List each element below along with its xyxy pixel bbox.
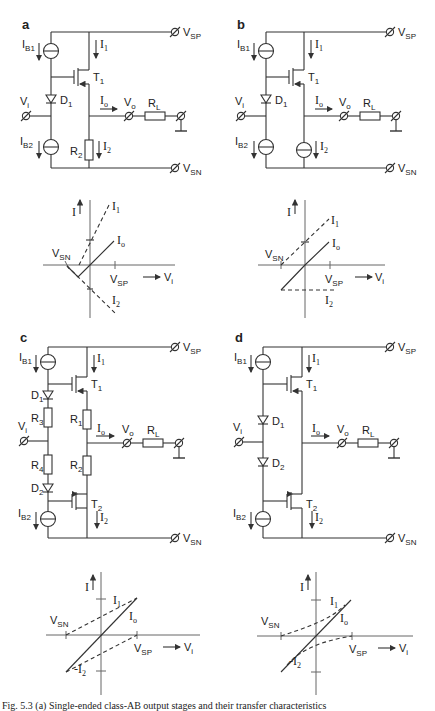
i1-label: I1 xyxy=(100,37,108,53)
i2-label: I2 xyxy=(112,293,120,309)
io-label: Io xyxy=(100,93,108,109)
vsn-terminal xyxy=(385,533,395,543)
ib1-label: IB1 xyxy=(237,38,250,53)
ib2-label: IB2 xyxy=(20,135,33,150)
vsn-label: VSN xyxy=(183,532,202,547)
resistor-r2 xyxy=(83,456,91,475)
ib2-label: IB2 xyxy=(233,507,246,522)
rl-label: RL xyxy=(148,97,161,112)
vo-label: Vo xyxy=(122,423,134,438)
vsn-label: VSN xyxy=(50,614,69,629)
vi-label: Vi xyxy=(18,420,27,435)
vi-label: Vi xyxy=(235,95,244,110)
vsp-terminal xyxy=(170,27,180,37)
vsp-label: VSP xyxy=(398,341,416,356)
panel-d-plot: I I1 Io -I2 VSN VSP Vi xyxy=(257,572,413,695)
vsn-terminal xyxy=(170,163,180,173)
vsp-label: VSP xyxy=(183,341,201,356)
vsn-label: VSN xyxy=(398,162,417,177)
y-axis-label: I xyxy=(85,580,89,594)
vsn-terminal xyxy=(385,163,395,173)
io-label: Io xyxy=(117,233,125,249)
i2-label: I2 xyxy=(315,510,323,526)
current-source-ib2 xyxy=(256,512,271,527)
resistor-rl xyxy=(145,112,165,120)
x-axis-label: Vi xyxy=(164,271,173,286)
panel-a-label: a xyxy=(22,17,30,32)
vsn-label: VSN xyxy=(261,615,280,630)
curve-i1 xyxy=(79,203,110,265)
i2-label: -I2 xyxy=(74,662,86,678)
vi-terminal xyxy=(234,437,244,447)
i2-label: I2 xyxy=(320,139,328,155)
x-axis-label: Vi xyxy=(375,271,384,286)
i2-label: I2 xyxy=(103,139,111,155)
vo-label: Vo xyxy=(337,423,349,438)
current-source-ib1 xyxy=(256,355,271,370)
vsn-label: VSN xyxy=(183,162,202,177)
vo-terminal xyxy=(124,111,134,121)
ib1-label: IB1 xyxy=(19,351,32,366)
vi-terminal xyxy=(236,111,246,121)
vsp-terminal xyxy=(170,342,180,352)
current-source-i2 xyxy=(297,143,312,158)
d1-label: D1 xyxy=(272,415,285,430)
i2-label: -I2 xyxy=(289,654,301,670)
rl-label: RL xyxy=(362,424,375,439)
ib2-label: IB2 xyxy=(235,135,248,150)
resistor-rl xyxy=(360,112,380,120)
panel-b-label: b xyxy=(237,17,245,32)
t1-label: T1 xyxy=(308,71,320,86)
current-source-ib1 xyxy=(259,44,274,59)
r2-label: R2 xyxy=(70,145,83,160)
resistor-r4 xyxy=(44,455,52,474)
vi-terminal xyxy=(19,436,29,446)
vsp-terminal xyxy=(385,342,395,352)
vsp-label: VSP xyxy=(325,273,343,288)
resistor-r2 xyxy=(85,140,93,160)
t1-label: T1 xyxy=(91,378,103,393)
io-label: Io xyxy=(97,421,105,437)
panel-d-circuit: d VSP IB1 D1 Vi D2 IB2 VSN T1 I1 xyxy=(233,330,417,547)
d1-label: D1 xyxy=(275,94,288,109)
io-label: Io xyxy=(315,93,323,109)
vsp-terminal xyxy=(385,27,395,37)
panel-c-plot: I I1 Io -I2 VSN VSP Vi xyxy=(46,572,200,695)
r3-label: R3 xyxy=(31,412,44,427)
diode-d2 xyxy=(43,484,53,492)
io-label: Io xyxy=(340,611,348,627)
ib1-label: IB1 xyxy=(22,38,35,53)
diode-d1 xyxy=(261,95,271,103)
io-label: Io xyxy=(332,236,340,252)
panel-a-circuit: a VSP IB1 D1 Vi IB2 VSN T1 I1 Io xyxy=(20,17,202,177)
r1-label: R1 xyxy=(70,413,83,428)
i1-label: I1 xyxy=(312,351,320,367)
vsn-terminal xyxy=(170,533,180,543)
vsn-label: VSN xyxy=(52,247,71,262)
x-axis-label: Vi xyxy=(184,641,193,656)
d1-label: D1 xyxy=(31,389,44,404)
current-source-ib1 xyxy=(44,44,59,59)
panel-c-label: c xyxy=(20,330,27,345)
vsn-label: VSN xyxy=(398,532,417,547)
vsp-label: VSP xyxy=(398,26,416,41)
ib2-label: IB2 xyxy=(18,507,31,522)
resistor-rl xyxy=(143,439,163,447)
vo-label: Vo xyxy=(339,96,351,111)
vo-terminal xyxy=(339,111,349,121)
figure-caption: Fig. 5.3 (a) Single-ended class-AB outpu… xyxy=(2,700,432,711)
panel-d-label: d xyxy=(235,330,243,345)
vsp-label: VSP xyxy=(349,643,367,658)
diode-d1 xyxy=(258,416,268,424)
current-source-ib2 xyxy=(44,140,59,155)
vsp-label: VSP xyxy=(134,642,152,657)
d1-label: D1 xyxy=(60,94,73,109)
current-source-ib2 xyxy=(41,512,56,527)
i2-label: I2 xyxy=(325,293,333,309)
vsp-label: VSP xyxy=(183,26,201,41)
rl-label: RL xyxy=(363,97,376,112)
current-source-ib2 xyxy=(259,140,274,155)
resistor-r1 xyxy=(83,410,91,429)
ib1-label: IB1 xyxy=(234,351,247,366)
i1-label: I1 xyxy=(315,37,323,53)
